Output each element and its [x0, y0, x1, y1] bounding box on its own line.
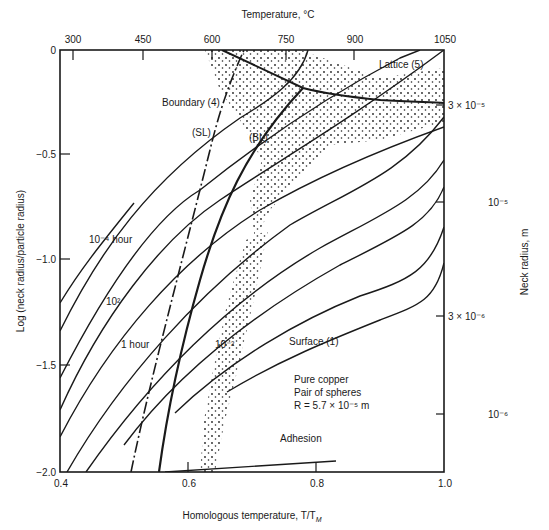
boundary-lattice-shaded-region [205, 50, 444, 240]
svg-text:−2.0: −2.0 [36, 467, 56, 478]
y-ticks [60, 154, 70, 365]
svg-text:3 × 10⁻⁶: 3 × 10⁻⁶ [448, 311, 485, 322]
svg-text:450: 450 [135, 34, 152, 45]
adhesion-region-label: Adhesion [280, 433, 322, 444]
svg-text:−0.5: −0.5 [36, 149, 56, 160]
bl-label: (BL) [249, 132, 268, 143]
surface-boundary-shaded-band [200, 230, 268, 472]
svg-text:−1.0: −1.0 [36, 254, 56, 265]
svg-text:0.6: 0.6 [182, 478, 196, 489]
svg-text:1050: 1050 [434, 34, 457, 45]
y-tick-labels: 0 −0.5 −1.0 −1.5 −2.0 [36, 45, 56, 478]
svg-text:Pure copper: Pure copper [294, 374, 349, 385]
svg-text:300: 300 [65, 34, 82, 45]
svg-text:0.8: 0.8 [310, 478, 324, 489]
svg-text:1.0: 1.0 [438, 478, 452, 489]
surface-region-label: Surface (1) [289, 336, 338, 347]
top-tick-labels: 300 450 600 750 900 1050 [65, 34, 457, 45]
x-axis-title: Homologous temperature, T/TM [182, 510, 321, 523]
y-axis-title: Log (neck radius/particle radius) [15, 190, 26, 332]
boundary-region-label: Boundary (4) [162, 97, 220, 108]
time-label-1e-4-hour: 10⁻⁴ hour [89, 234, 133, 245]
svg-text:0: 0 [50, 45, 56, 56]
right-ticks [436, 105, 444, 414]
svg-text:10⁻⁶: 10⁻⁶ [488, 409, 508, 420]
svg-text:3 × 10⁻⁵: 3 × 10⁻⁵ [448, 100, 485, 111]
svg-text:Pair of spheres: Pair of spheres [294, 387, 361, 398]
adhesion-line [165, 461, 336, 472]
right-axis-title: Neck radius, m [519, 229, 530, 296]
lattice-region-label: Lattice (5) [379, 59, 423, 70]
svg-text:600: 600 [204, 34, 221, 45]
sintering-diagram: Temperature, °C Homologous temperature, … [0, 0, 549, 530]
top-axis-title: Temperature, °C [242, 9, 315, 20]
time-label-1-hour: 1 hour [121, 339, 150, 350]
material-annotation: Pure copper Pair of spheres R = 5.7 × 10… [294, 374, 369, 411]
time-label-1e-2: 10⁻² [215, 339, 235, 350]
svg-text:750: 750 [278, 34, 295, 45]
svg-text:10⁻⁵: 10⁻⁵ [488, 197, 508, 208]
right-tick-labels: 3 × 10⁻⁵ 10⁻⁵ 3 × 10⁻⁶ 10⁻⁶ [448, 100, 508, 420]
x-tick-labels: 0.4 0.6 0.8 1.0 [54, 478, 452, 489]
time-label-1e2: 10² [106, 296, 121, 307]
sl-label: (SL) [192, 127, 211, 138]
svg-text:900: 900 [347, 34, 364, 45]
svg-text:0.4: 0.4 [54, 478, 68, 489]
svg-text:R = 5.7 × 10⁻⁵ m: R = 5.7 × 10⁻⁵ m [294, 400, 369, 411]
svg-text:−1.5: −1.5 [36, 360, 56, 371]
plot-area [60, 50, 444, 472]
